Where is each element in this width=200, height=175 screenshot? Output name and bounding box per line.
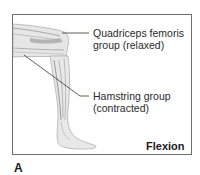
flexion-label: Flexion	[146, 140, 185, 152]
hamstring-label-line1: Hamstring group	[93, 90, 171, 102]
hamstring-label-line2: (contracted)	[93, 102, 171, 114]
quadriceps-label-line2: group (relaxed)	[93, 39, 184, 51]
hamstring-label: Hamstring group (contracted)	[93, 90, 171, 114]
lower-leg-muscles	[50, 56, 96, 149]
thigh-muscles	[13, 24, 69, 57]
panel-letter: A	[14, 161, 23, 175]
quadriceps-label: Quadriceps femoris group (relaxed)	[93, 27, 184, 51]
quadriceps-label-line1: Quadriceps femoris	[93, 27, 184, 39]
